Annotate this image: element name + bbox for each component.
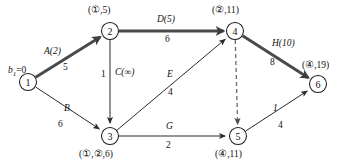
- edge-3-4: [117, 39, 225, 130]
- edge-value-5-6: 4: [278, 121, 283, 131]
- node-number-6: 6: [316, 79, 321, 90]
- node-label-4: (②,11): [212, 6, 239, 16]
- node-number-3: 3: [108, 131, 113, 142]
- supply-value: =0: [16, 65, 26, 75]
- edge-name-3-5: G: [166, 122, 173, 132]
- edge-value-2-4: 6: [165, 35, 170, 45]
- edge-value-3-4: 4: [168, 88, 173, 98]
- edge-name-3-4: E: [167, 70, 173, 80]
- node-label-2: (①,5): [88, 6, 110, 16]
- edge-value-2-3: 1: [101, 70, 106, 80]
- node-number-4: 4: [233, 26, 238, 37]
- node-number-2: 2: [108, 26, 113, 37]
- edge-name-1-3: B: [64, 104, 70, 114]
- edge-name-5-6: 1: [273, 104, 278, 114]
- edge-value-4-6: 8: [270, 58, 275, 68]
- node-label-3: (①,②,6): [79, 150, 113, 160]
- node-number-5: 5: [236, 131, 241, 142]
- flow-network-figure: 123456 A(2)5B6C(∞)1D(5)6E4G2H(10)814(①,5…: [0, 0, 350, 166]
- edge-name-1-2: A(2): [44, 47, 61, 57]
- node-label-5: (④,11): [215, 150, 242, 160]
- node-number-1: 1: [26, 77, 31, 88]
- source-supply-label: b1=0: [8, 66, 26, 78]
- edge-4-5: [235, 40, 237, 124]
- edge-value-3-5: 2: [166, 141, 171, 151]
- node-label-6: (④,19): [302, 61, 329, 71]
- edge-value-1-3: 6: [58, 120, 63, 130]
- edge-name-2-3: C(∞): [115, 68, 134, 78]
- edge-name-2-4: D(5): [157, 15, 175, 25]
- edge-name-4-6: H(10): [272, 39, 295, 49]
- graph-canvas: 123456: [0, 0, 350, 166]
- edge-value-1-2: 5: [63, 63, 68, 73]
